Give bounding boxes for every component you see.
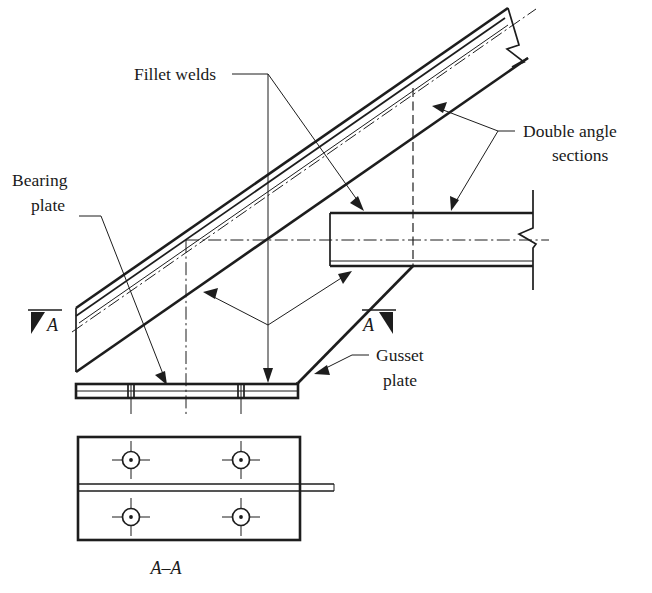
leader-double-angle-branch-upper bbox=[438, 108, 498, 131]
diagonal-center-line bbox=[72, 9, 536, 332]
bolt-hole-top-right bbox=[222, 441, 260, 479]
break-symbol-diagonal bbox=[507, 8, 528, 67]
gusset-right-sloped-edge bbox=[298, 266, 413, 383]
bolt-hole-bottom-right bbox=[222, 498, 260, 536]
leader-gusset-plate bbox=[322, 355, 369, 370]
label-gusset-plate-line1: Gusset bbox=[376, 345, 424, 365]
section-marker-left-arrow-icon bbox=[31, 312, 45, 334]
bolt-hole-center-dot bbox=[129, 458, 133, 462]
diagonal-top-edge bbox=[76, 8, 508, 308]
section-plate-outline bbox=[78, 437, 300, 540]
section-marker-left-letter: A bbox=[46, 315, 59, 335]
arrowhead-fillet-weld-bearing bbox=[263, 368, 273, 383]
arrowhead-gusset-plate bbox=[314, 365, 330, 375]
label-double-angle-line2: sections bbox=[552, 145, 609, 165]
label-gusset-plate-line2: plate bbox=[383, 370, 417, 390]
arrowhead-weld-diagonal-underside bbox=[203, 288, 218, 299]
bolt-hole-center-dot bbox=[239, 458, 243, 462]
bearing-plate bbox=[76, 384, 298, 398]
leader-bearing-plate bbox=[79, 216, 163, 374]
diagonal-top-inner-edge bbox=[76, 18, 505, 316]
engineering-drawing-figure: A A bbox=[0, 0, 652, 593]
leader-weld-vertex-to-diagonal bbox=[210, 295, 268, 325]
label-bearing-plate-line1: Bearing bbox=[12, 170, 68, 190]
section-view-a-a: A–A bbox=[78, 437, 334, 578]
bolt-hole-group bbox=[112, 441, 260, 536]
section-view-caption: A–A bbox=[150, 558, 183, 578]
leader-lines bbox=[79, 74, 515, 385]
label-bearing-plate-line2: plate bbox=[31, 195, 65, 215]
leader-double-angle-branch-lower bbox=[455, 131, 498, 203]
bolt-hole-center-dot bbox=[239, 515, 243, 519]
gusset-plate bbox=[296, 266, 413, 383]
section-marker-right-arrow-icon bbox=[379, 312, 393, 334]
drawing-canvas: A A bbox=[0, 0, 652, 593]
leader-fillet-welds-branch-right bbox=[268, 74, 360, 204]
bolt-hole-bottom-left bbox=[112, 498, 150, 536]
leader-weld-vertex-to-chord-bottom bbox=[268, 275, 346, 325]
diagonal-double-angle-member bbox=[72, 8, 536, 372]
construction-lines bbox=[131, 88, 413, 414]
arrowhead-weld-chord-bottom bbox=[338, 271, 352, 284]
bolt-hole-center-dot bbox=[129, 515, 133, 519]
section-marker-left: A bbox=[28, 310, 62, 335]
label-fillet-welds: Fillet welds bbox=[134, 64, 216, 84]
label-double-angle-line1: Double angle bbox=[523, 121, 617, 141]
section-marker-right-letter: A bbox=[362, 315, 375, 335]
horizontal-double-angle-member bbox=[186, 190, 549, 290]
arrowhead-double-angle-diagonal bbox=[432, 102, 447, 113]
bolt-hole-top-left bbox=[112, 441, 150, 479]
arrowhead-fillet-weld-chord-top bbox=[350, 196, 364, 211]
